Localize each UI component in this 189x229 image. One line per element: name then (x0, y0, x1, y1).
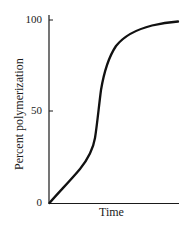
y-axis-label: Percent polymerization (12, 58, 27, 170)
x-axis-label: Time (99, 205, 124, 220)
polymerization-curve (50, 22, 179, 204)
y-tick-label-0: 0 (18, 197, 42, 208)
polymerization-chart: 100 50 0 Percent polymerization Time (0, 0, 189, 229)
y-tick-label-100: 100 (18, 14, 42, 25)
